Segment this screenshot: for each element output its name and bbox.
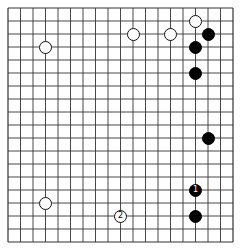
white-stone[interactable] (127, 28, 140, 41)
black-stone[interactable] (202, 132, 215, 145)
black-stone[interactable] (189, 67, 202, 80)
black-stone[interactable] (202, 28, 215, 41)
white-stone[interactable] (189, 15, 202, 28)
black-stone[interactable] (189, 210, 202, 223)
black-stone[interactable]: 1 (189, 184, 202, 197)
go-board[interactable]: 12 (0, 0, 240, 250)
white-stone[interactable] (39, 41, 52, 54)
move-number-label: 1 (193, 186, 198, 194)
white-stone[interactable]: 2 (114, 210, 127, 223)
move-number-label: 2 (118, 212, 123, 220)
white-stone[interactable] (164, 28, 177, 41)
black-stone[interactable] (189, 41, 202, 54)
white-stone[interactable] (39, 197, 52, 210)
